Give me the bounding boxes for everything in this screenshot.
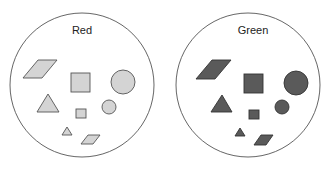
red-small-triangle — [62, 127, 72, 135]
set-green: Green — [176, 13, 320, 157]
venn-sets-diagram: Red Green — [0, 0, 331, 170]
green-large-triangle — [211, 95, 232, 112]
green-large-parallelogram — [196, 60, 231, 79]
green-large-square — [244, 74, 263, 93]
red-large-parallelogram — [23, 60, 57, 78]
set-red-label: Red — [72, 24, 92, 36]
red-small-square — [76, 109, 86, 118]
red-small-parallelogram — [81, 135, 100, 144]
green-small-square — [249, 110, 259, 119]
set-green-label: Green — [238, 24, 269, 36]
green-small-triangle — [235, 128, 245, 136]
red-small-circle — [102, 100, 116, 114]
green-small-parallelogram — [254, 135, 273, 145]
green-large-circle — [284, 71, 308, 95]
red-large-circle — [111, 70, 135, 94]
red-large-square — [71, 73, 90, 92]
green-small-circle — [275, 100, 289, 114]
red-large-triangle — [37, 94, 59, 112]
set-red: Red — [10, 13, 154, 157]
